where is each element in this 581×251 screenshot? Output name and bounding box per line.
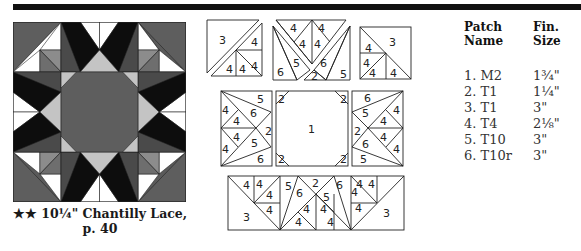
- table-row: 6. T10r 3": [464, 148, 581, 164]
- label-4: 4: [327, 216, 334, 229]
- fin-size: 2⅛": [533, 116, 560, 132]
- label-3: 3: [243, 211, 250, 224]
- table-row: 5. T10 3": [464, 132, 581, 148]
- label-4: 4: [226, 63, 233, 76]
- label-4: 4: [266, 189, 273, 202]
- label-4: 4: [233, 131, 240, 144]
- label-4: 4: [320, 203, 327, 216]
- patch-name: 4. T4: [464, 116, 533, 132]
- patch-diagram: 3 4 4 4 4 4 4 4 4 6 5 6 5 2 3 4 4 4 4 5 …: [200, 14, 420, 236]
- label-1: 1: [308, 123, 315, 136]
- header-text: Fin.: [533, 20, 561, 34]
- label-4: 4: [390, 67, 397, 80]
- label-2: 2: [340, 93, 347, 106]
- label-3: 3: [383, 207, 390, 220]
- label-5: 5: [257, 93, 264, 106]
- label-4: 4: [251, 36, 258, 49]
- label-4: 4: [314, 38, 321, 51]
- header-fin-size: Fin. Size: [533, 20, 561, 48]
- table-row: 1. M2 1¾": [464, 68, 581, 84]
- label-4: 4: [368, 178, 375, 191]
- label-4: 4: [355, 202, 362, 215]
- caption-title: ★★ 10¼" Chantilly Lace,: [0, 206, 200, 221]
- table-row: 2. T1 1¼": [464, 84, 581, 100]
- label-4: 4: [243, 179, 250, 192]
- label-4: 4: [233, 115, 240, 128]
- header-text: Patch: [464, 20, 533, 34]
- label-4: 4: [351, 186, 358, 199]
- fin-size: 3": [533, 148, 547, 164]
- label-6: 6: [296, 187, 303, 200]
- label-4: 4: [303, 203, 310, 216]
- table-header: Patch Name Fin. Size: [464, 20, 581, 48]
- label-4: 4: [299, 38, 306, 51]
- label-6: 6: [250, 107, 257, 120]
- label-4: 4: [239, 63, 246, 76]
- label-5: 5: [362, 107, 369, 120]
- table-body: 1. M2 1¾" 2. T1 1¼" 3. T1 3" 4. T4 2⅛" 5…: [464, 68, 581, 164]
- patch-name: 3. T1: [464, 100, 533, 116]
- label-4: 4: [393, 143, 400, 156]
- block-caption: ★★ 10¼" Chantilly Lace, p. 40: [0, 206, 200, 236]
- top-rule: [13, 4, 581, 10]
- label-5: 5: [340, 68, 347, 81]
- label-2: 2: [312, 177, 319, 190]
- label-4: 4: [222, 104, 229, 117]
- patch-table: Patch Name Fin. Size 1. M2 1¾" 2. T1 1¼"…: [464, 20, 581, 164]
- patch-name: 6. T10r: [464, 148, 533, 164]
- label-2: 2: [265, 125, 272, 138]
- patch-name: 2. T1: [464, 84, 533, 100]
- label-4: 4: [380, 131, 387, 144]
- label-3: 3: [389, 36, 396, 49]
- label-5: 5: [285, 180, 292, 193]
- label-5: 5: [251, 137, 258, 150]
- fin-size: 3": [533, 132, 547, 148]
- label-5: 5: [293, 57, 300, 70]
- label-4: 4: [369, 67, 376, 80]
- label-2: 2: [278, 153, 285, 166]
- fin-size: 1¾": [533, 68, 560, 84]
- label-6: 6: [336, 179, 343, 192]
- label-2: 2: [354, 125, 361, 138]
- header-text: Name: [464, 34, 533, 48]
- label-6: 6: [257, 153, 264, 166]
- label-4: 4: [318, 22, 325, 35]
- header-patch-name: Patch Name: [464, 20, 533, 48]
- label-4: 4: [251, 60, 258, 73]
- patch-name: 1. M2: [464, 68, 533, 84]
- fin-size: 1¼": [533, 84, 560, 100]
- quilt-block-image: [13, 22, 186, 202]
- table-row: 4. T4 2⅛": [464, 116, 581, 132]
- label-4: 4: [290, 22, 297, 35]
- label-3: 3: [219, 34, 226, 47]
- label-4: 4: [380, 115, 387, 128]
- label-2: 2: [340, 153, 347, 166]
- label-5: 5: [360, 153, 367, 166]
- label-4: 4: [222, 143, 229, 156]
- label-6: 6: [320, 57, 327, 70]
- label-4: 4: [256, 178, 263, 191]
- label-4: 4: [365, 42, 372, 55]
- label-6: 6: [362, 138, 369, 151]
- label-2: 2: [278, 93, 285, 106]
- label-4: 4: [266, 204, 273, 217]
- patch-name: 5. T10: [464, 132, 533, 148]
- fin-size: 3": [533, 100, 547, 116]
- caption-page: p. 40: [0, 221, 200, 236]
- header-text: Size: [533, 34, 561, 48]
- label-4: 4: [295, 216, 302, 229]
- label-6: 6: [364, 92, 371, 105]
- label-2: 2: [311, 70, 318, 83]
- label-4: 4: [393, 104, 400, 117]
- table-row: 3. T1 3": [464, 100, 581, 116]
- label-6: 6: [277, 66, 284, 79]
